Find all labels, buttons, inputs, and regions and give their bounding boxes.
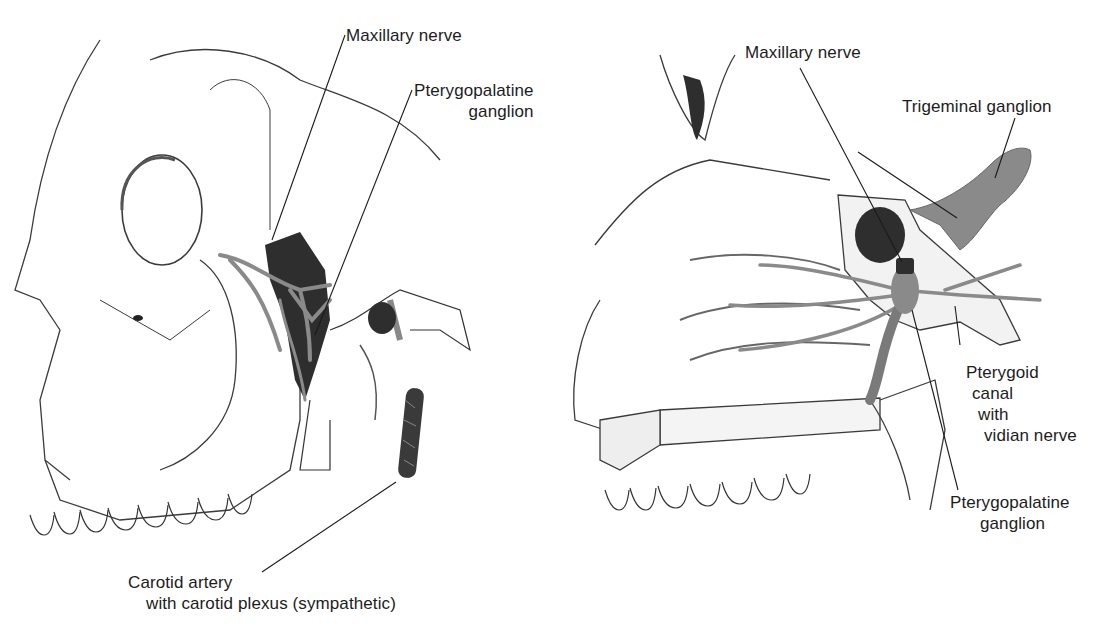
label-text: Maxillary nerve xyxy=(745,42,861,63)
label-carotid-artery: Carotid artery with carotid plexus (symp… xyxy=(128,572,396,614)
label-text: Pterygopalatine xyxy=(414,80,534,101)
label-text: ganglion xyxy=(414,101,534,122)
pterygopalatine-fossa xyxy=(265,232,330,400)
label-text: Pterygopalatine xyxy=(950,492,1070,513)
vidian-branch xyxy=(360,345,376,420)
label-text: Trigeminal ganglion xyxy=(902,96,1052,117)
label-text: ganglion xyxy=(950,513,1070,534)
right-teeth xyxy=(605,474,810,510)
label-text: canal xyxy=(966,383,1077,404)
label-text: Maxillary nerve xyxy=(346,25,462,46)
label-right-pterygopalatine-ganglion: Pterygopalatine ganglion xyxy=(950,492,1070,534)
label-pterygoid-canal: Pterygoid canal with vidian nerve xyxy=(966,362,1077,446)
label-text: with carotid plexus (sympathetic) xyxy=(128,593,396,614)
upper-teeth xyxy=(30,494,252,535)
label-right-maxillary-nerve: Maxillary nerve xyxy=(745,42,861,63)
label-text: Carotid artery xyxy=(128,572,396,593)
label-left-pterygopalatine-ganglion: Pterygopalatine ganglion xyxy=(414,80,534,122)
label-text: vidian nerve xyxy=(966,425,1077,446)
label-text: with xyxy=(966,404,1077,425)
hard-palate xyxy=(660,398,880,445)
left-skull-illustration xyxy=(15,40,440,535)
dark-canal xyxy=(368,302,396,334)
label-text: Pterygoid xyxy=(966,362,1077,383)
label-left-maxillary-nerve: Maxillary nerve xyxy=(346,25,462,46)
label-trigeminal-ganglion: Trigeminal ganglion xyxy=(902,96,1052,117)
carotid-artery xyxy=(397,387,424,478)
